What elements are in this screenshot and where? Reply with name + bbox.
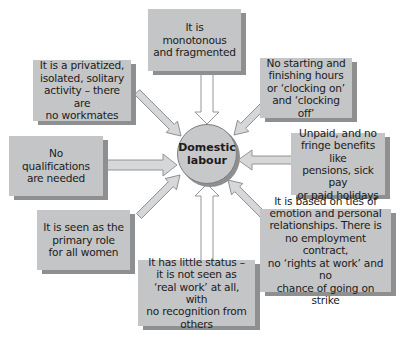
box-text-line: others: [142, 318, 251, 330]
box-text-line: finishing hours: [264, 69, 348, 81]
arrow-right: [238, 150, 292, 170]
center-label-line2: labour: [178, 154, 236, 167]
box-text-line: chance of going on strike: [264, 282, 387, 307]
arrow-bottom: [195, 184, 219, 262]
box-text-line: It is based on ties of: [264, 195, 387, 207]
box-text-line: are needed: [22, 172, 90, 184]
box-text-line: emotion and personal: [264, 207, 387, 219]
domestic-labour-diagram: It is monotonous and fragmented It is a …: [0, 0, 410, 342]
box-no-hours: No starting and finishing hours or ‘cloc…: [260, 58, 352, 118]
box-text-line: monotonous: [153, 34, 236, 46]
arrow-top: [195, 72, 219, 124]
box-text-line: isolated, solitary: [37, 72, 127, 84]
box-text-line: qualifications: [22, 160, 90, 172]
central-node-domestic-labour: Domestic labour: [177, 124, 237, 184]
box-text-line: It is seen as the: [43, 221, 123, 233]
box-text-line: pensions, sick pay: [295, 164, 381, 189]
box-text-line: or ‘clocking on’: [264, 82, 348, 94]
box-monotonous: It is monotonous and fragmented: [148, 9, 241, 71]
box-text-line: it is not seen as: [142, 268, 251, 280]
arrow-left: [103, 154, 177, 176]
box-text-line: no recognition from: [142, 305, 251, 317]
box-text-line: no workmates: [37, 109, 127, 121]
box-text-line: no ‘rights at work’ and no: [264, 257, 387, 282]
box-text-line: No starting and: [264, 57, 348, 69]
box-text-line: no employment contract,: [264, 232, 387, 257]
box-emotional-ties: It is based on ties of emotion and perso…: [260, 209, 391, 292]
box-text-line: It is a privatized,: [37, 59, 127, 71]
box-text-line: It has little status –: [142, 256, 251, 268]
box-text-line: and fragmented: [153, 46, 236, 58]
box-text-line: fringe benefits like: [295, 139, 381, 164]
box-no-qualifications: No qualifications are needed: [9, 136, 103, 196]
box-little-status: It has little status – it is not seen as…: [138, 260, 255, 326]
box-unpaid: Unpaid, and no fringe benefits like pens…: [291, 133, 385, 195]
box-primary-role: It is seen as the primary role for all w…: [37, 210, 130, 270]
box-text-line: and ‘clocking off’: [264, 94, 348, 119]
box-privatized: It is a privatized, isolated, solitary a…: [33, 60, 131, 121]
box-text-line: ‘real work’ at all, with: [142, 281, 251, 306]
box-text-line: primary role: [43, 234, 123, 246]
box-text-line: It is: [153, 21, 236, 33]
arrow-bottom-left: [133, 169, 185, 221]
box-text-line: activity – there are: [37, 84, 127, 109]
box-text-line: relationships. There is: [264, 219, 387, 231]
arrow-top-left: [132, 87, 187, 142]
box-text-line: for all women: [43, 246, 123, 258]
box-text-line: Unpaid, and no: [295, 127, 381, 139]
center-label-line1: Domestic: [178, 141, 236, 154]
box-text-line: No: [22, 147, 90, 159]
